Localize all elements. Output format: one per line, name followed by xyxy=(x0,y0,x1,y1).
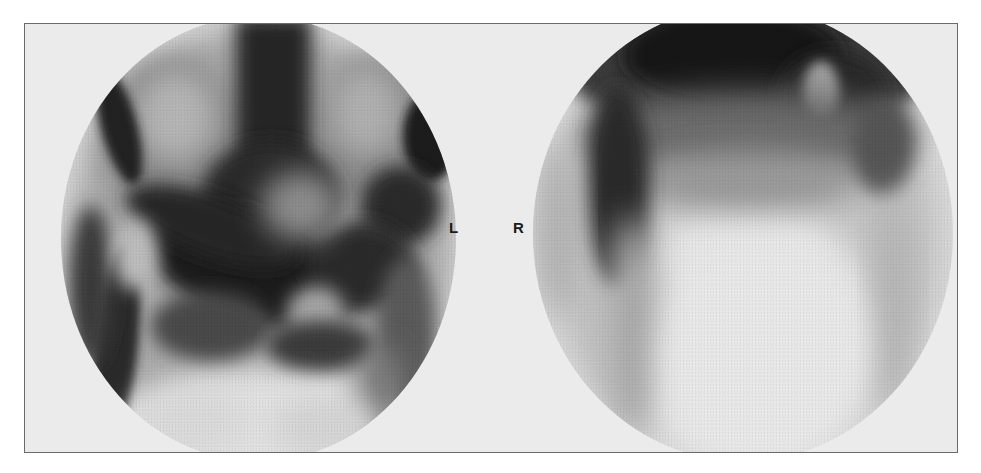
scan-view-right xyxy=(533,23,953,453)
scan-left-image xyxy=(61,23,456,453)
scan-figure-frame: L R xyxy=(24,23,958,453)
scan-right-image xyxy=(533,23,953,453)
right-side-marker: R xyxy=(513,219,524,236)
left-side-marker: L xyxy=(449,219,458,236)
scan-view-left xyxy=(61,23,456,453)
